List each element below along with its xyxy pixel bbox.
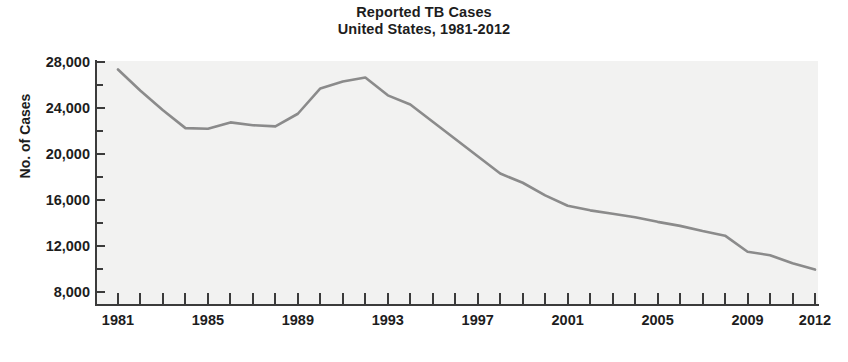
x-tick (634, 293, 636, 305)
x-tick (319, 293, 321, 305)
x-tick-label: 1981 (102, 312, 134, 328)
chart-subtitle: United States, 1981-2012 (0, 21, 848, 38)
x-tick-label: 1989 (282, 312, 314, 328)
x-tick-label: 1985 (192, 312, 224, 328)
x-tick (207, 293, 209, 305)
x-tick (454, 293, 456, 305)
x-tick (522, 293, 524, 305)
y-tick-minor (96, 222, 103, 224)
x-tick (679, 293, 681, 305)
x-tick-label: 2012 (799, 312, 831, 328)
y-axis-title: No. of Cases (17, 71, 33, 201)
x-tick-label: 2009 (731, 312, 763, 328)
y-tick-minor (96, 130, 103, 132)
x-tick (409, 293, 411, 305)
y-tick-minor (96, 84, 103, 86)
y-tick-label: 8,000 (4, 284, 90, 300)
y-tick-label: 20,000 (4, 146, 90, 162)
y-tick-minor (96, 176, 103, 178)
x-tick (274, 293, 276, 305)
x-axis-line (95, 304, 819, 306)
x-tick (769, 293, 771, 305)
x-tick (589, 293, 591, 305)
x-tick (184, 293, 186, 305)
x-tick (747, 293, 749, 305)
x-tick (544, 293, 546, 305)
x-tick (477, 293, 479, 305)
y-tick-major (96, 107, 105, 109)
plot-area (96, 61, 818, 305)
y-tick-label: 16,000 (4, 192, 90, 208)
x-tick (139, 293, 141, 305)
x-tick (567, 293, 569, 305)
x-tick-label: 2001 (552, 312, 584, 328)
y-tick-major (96, 291, 105, 293)
x-tick (814, 293, 816, 305)
series-line-reported-tb-cases (118, 69, 815, 269)
y-tick-minor (96, 268, 103, 270)
x-tick (117, 293, 119, 305)
x-tick-label: 2005 (641, 312, 673, 328)
y-tick-label: 28,000 (4, 54, 90, 70)
x-tick (702, 293, 704, 305)
x-tick (364, 293, 366, 305)
x-tick (297, 293, 299, 305)
y-tick-major (96, 153, 105, 155)
x-tick (612, 293, 614, 305)
x-tick (342, 293, 344, 305)
y-tick-label: 12,000 (4, 238, 90, 254)
x-tick (499, 293, 501, 305)
x-tick (162, 293, 164, 305)
x-tick (229, 293, 231, 305)
x-tick (432, 293, 434, 305)
y-tick-major (96, 61, 105, 63)
series-svg (96, 61, 818, 305)
x-tick (252, 293, 254, 305)
x-tick (387, 293, 389, 305)
chart-figure: Reported TB Cases United States, 1981-20… (0, 0, 848, 362)
x-tick (724, 293, 726, 305)
x-tick (657, 293, 659, 305)
x-tick-label: 1993 (372, 312, 404, 328)
chart-title-block: Reported TB Cases United States, 1981-20… (0, 4, 848, 38)
x-tick-label: 1997 (462, 312, 494, 328)
y-tick-major (96, 245, 105, 247)
chart-title: Reported TB Cases (0, 4, 848, 21)
x-tick (792, 293, 794, 305)
y-tick-label: 24,000 (4, 100, 90, 116)
y-tick-major (96, 199, 105, 201)
